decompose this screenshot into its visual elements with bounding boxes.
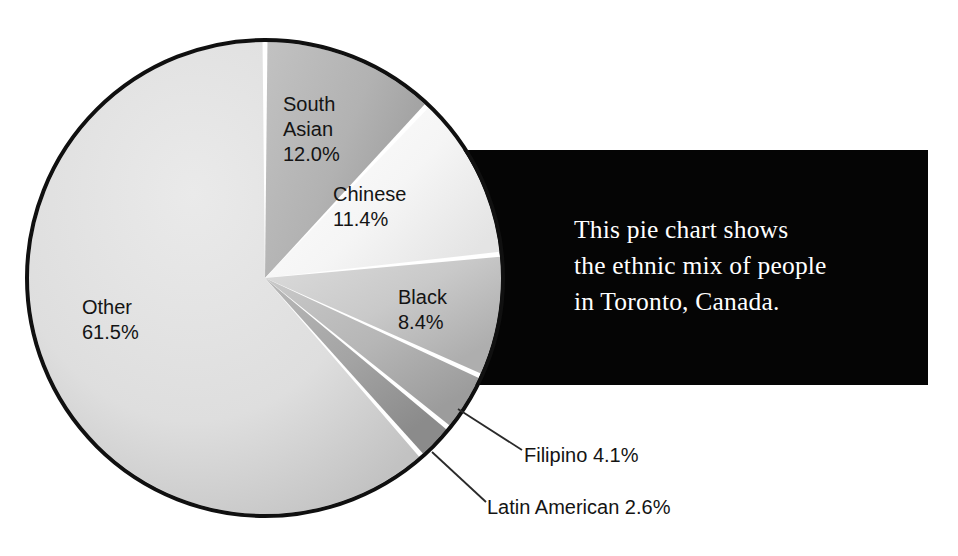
slice-label-other-name: Other [82,295,139,320]
slice-label-south-asian-value: 12.0% [283,142,340,167]
slice-label-south-asian-line2: Asian [283,117,340,142]
slice-label-black-value: 8.4% [398,310,447,335]
slice-label-south-asian: South Asian 12.0% [283,92,340,167]
slice-label-other-value: 61.5% [82,320,139,345]
slice-label-black-name: Black [398,285,447,310]
leader-line-latin-american [432,452,486,502]
pie-graphic [0,0,958,556]
pie-chart-figure: This pie chart shows the ethnic mix of p… [0,0,958,556]
leader-line-filipino [458,409,522,450]
slice-label-black: Black 8.4% [398,285,447,335]
callout-label-latin-american: Latin American 2.6% [487,496,670,519]
callout-label-filipino: Filipino 4.1% [524,444,639,467]
slice-label-chinese: Chinese 11.4% [333,182,406,232]
slice-label-other: Other 61.5% [82,295,139,345]
slice-label-chinese-value: 11.4% [333,207,406,232]
slice-label-chinese-name: Chinese [333,182,406,207]
slice-label-south-asian-line1: South [283,92,340,117]
pie-slices [29,42,501,514]
